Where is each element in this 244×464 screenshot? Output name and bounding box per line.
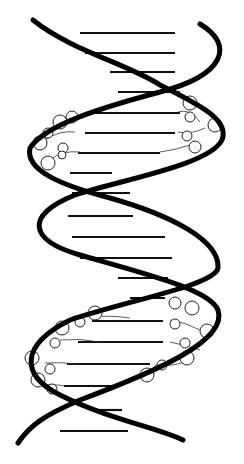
dna-double-helix-illustration xyxy=(0,0,244,464)
lower-loop-sugar-rings xyxy=(25,297,214,394)
helix-strand-2 xyxy=(30,24,220,440)
